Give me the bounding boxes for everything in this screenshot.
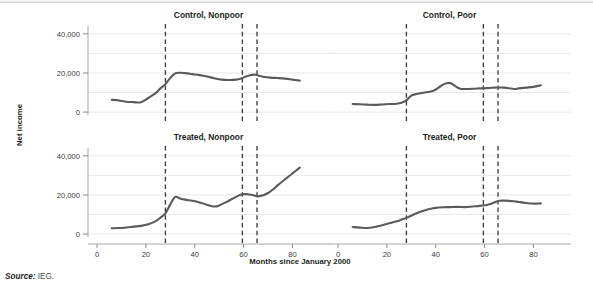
source-label: Source: bbox=[5, 272, 35, 281]
y-tick-label: 20,000 bbox=[57, 191, 80, 200]
y-tick-label: 0 bbox=[76, 230, 80, 239]
x-axis-title: Months since January 2000 bbox=[249, 257, 351, 266]
figure-container: 020,00040,000Control, NonpoorControl, Po… bbox=[0, 0, 593, 293]
x-tick-label: 60 bbox=[480, 250, 488, 259]
source-value: IEG. bbox=[38, 272, 54, 281]
x-tick-label: 80 bbox=[529, 250, 537, 259]
y-tick-label: 20,000 bbox=[57, 69, 80, 78]
panel-treated-poor: 020406080Treated, Poor bbox=[329, 132, 571, 259]
x-tick-label: 20 bbox=[383, 250, 391, 259]
y-tick-label: 40,000 bbox=[57, 152, 80, 161]
panel-control-nonpoor: 020,00040,000Control, Nonpoor bbox=[57, 10, 330, 122]
panel-treated-nonpoor: 020,00040,000020406080Treated, Nonpoor bbox=[57, 132, 330, 259]
x-tick-label: 0 bbox=[95, 250, 99, 259]
x-tick-label: 60 bbox=[239, 250, 247, 259]
data-series-line bbox=[112, 168, 300, 229]
y-tick-label: 0 bbox=[76, 108, 80, 117]
panel-control-poor: Control, Poor bbox=[329, 10, 571, 122]
source-note: Source: IEG. bbox=[5, 272, 54, 281]
x-tick-label: 40 bbox=[432, 250, 440, 259]
panel-title: Treated, Poor bbox=[423, 132, 477, 142]
panels-group: 020,00040,000Control, NonpoorControl, Po… bbox=[57, 10, 571, 259]
x-tick-label: 40 bbox=[191, 250, 199, 259]
panel-title: Treated, Nonpoor bbox=[174, 132, 244, 142]
chart-canvas: 020,00040,000Control, NonpoorControl, Po… bbox=[0, 0, 593, 293]
data-series-line bbox=[112, 73, 300, 103]
x-tick-label: 20 bbox=[142, 250, 150, 259]
panel-title: Control, Nonpoor bbox=[174, 10, 244, 20]
panel-title: Control, Poor bbox=[423, 10, 477, 20]
data-series-line bbox=[353, 83, 541, 105]
y-axis-title: Net income bbox=[15, 103, 24, 146]
y-tick-label: 40,000 bbox=[57, 30, 80, 39]
